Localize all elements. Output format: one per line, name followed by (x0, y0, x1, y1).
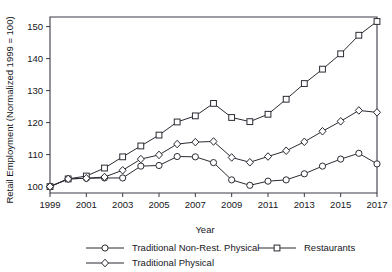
data-point-marker (156, 132, 162, 138)
data-point-marker (320, 66, 326, 72)
data-point-marker (138, 143, 144, 149)
data-point-marker (229, 177, 235, 183)
y-axis-title: Retail Employment (Normalized 1999 = 100… (4, 16, 15, 203)
x-tick-label: 2003 (112, 199, 133, 210)
data-point-marker (102, 165, 108, 171)
data-point-marker (174, 153, 180, 159)
legend-label: Restaurants (304, 242, 355, 253)
data-point-marker (138, 163, 144, 169)
x-tick-label: 2013 (294, 199, 315, 210)
data-point-marker (356, 150, 362, 156)
data-point-marker (283, 177, 289, 183)
line-chart: Retail Employment (Normalized 1999 = 100… (0, 0, 392, 272)
legend-label: Traditional Physical (132, 257, 214, 268)
data-point-marker (265, 178, 271, 184)
data-point-marker (120, 154, 126, 160)
data-point-marker (247, 119, 253, 125)
data-point-marker (247, 182, 253, 188)
data-point-marker (210, 160, 216, 166)
x-tick-label: 1999 (39, 199, 60, 210)
circle-marker (102, 245, 108, 251)
chart-figure: Retail Employment (Normalized 1999 = 100… (0, 0, 392, 272)
data-point-marker (319, 163, 325, 169)
x-tick-label: 2005 (148, 199, 169, 210)
data-point-marker (192, 113, 198, 119)
x-tick-label: 2015 (330, 199, 351, 210)
data-point-marker (338, 156, 344, 162)
data-point-marker (283, 96, 289, 102)
y-tick-label: 150 (27, 21, 43, 32)
data-point-marker (374, 161, 380, 167)
x-axis-title: Year (195, 224, 214, 235)
legend-entry[interactable]: Traditional Physical (86, 257, 214, 268)
x-tick-label: 2007 (185, 199, 206, 210)
data-point-marker (338, 51, 344, 57)
square-marker (274, 245, 280, 251)
x-tick-label: 2017 (366, 199, 387, 210)
y-tick-label: 140 (27, 53, 43, 64)
data-point-marker (265, 111, 271, 117)
data-point-marker (156, 162, 162, 168)
data-point-marker (229, 115, 235, 121)
y-tick-label: 110 (28, 149, 43, 160)
legend-label: Traditional Non-Rest. Physical (132, 242, 259, 253)
data-point-marker (120, 175, 126, 181)
x-tick-label: 2011 (258, 199, 278, 210)
y-tick-label: 100 (27, 181, 43, 192)
x-tick-label: 2001 (76, 199, 97, 210)
y-tick-label: 120 (27, 117, 43, 128)
data-point-marker (301, 171, 307, 177)
x-tick-label: 2009 (221, 199, 242, 210)
y-tick-label: 130 (27, 85, 43, 96)
data-point-marker (374, 19, 380, 25)
data-point-marker (211, 101, 217, 107)
data-point-marker (301, 81, 307, 87)
data-point-marker (192, 154, 198, 160)
data-point-marker (356, 32, 362, 38)
data-point-marker (174, 119, 180, 125)
